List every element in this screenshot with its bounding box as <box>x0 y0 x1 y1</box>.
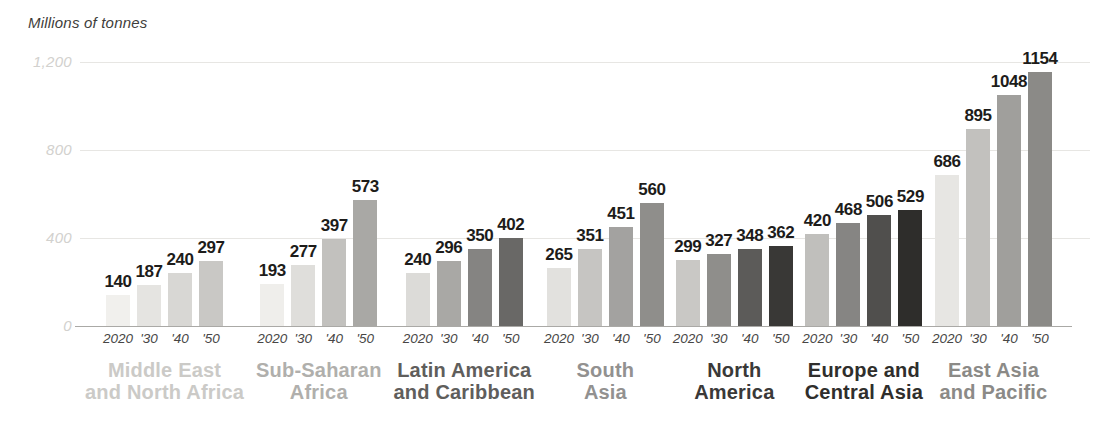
bar-value-label: 362 <box>767 223 794 243</box>
bar-cell: 277 <box>291 242 315 326</box>
x-tick-label: 2020 <box>547 331 571 346</box>
bar-value-label: 140 <box>104 272 131 292</box>
x-tick-label: '30 <box>836 331 860 346</box>
bar-cluster: 299327348362 <box>676 62 793 326</box>
x-tick-row: 2020'30'40'50 <box>676 331 793 346</box>
bar-cluster: 420468506529 <box>805 62 922 326</box>
bar-cell: 468 <box>836 200 860 326</box>
bar-value-label: 296 <box>435 238 462 258</box>
bar-value-label: 193 <box>259 261 286 281</box>
y-tick-label-1200: 1,200 <box>0 53 72 70</box>
bar-cluster: 140187240297 <box>106 62 223 326</box>
x-tick-label: '50 <box>1028 331 1052 346</box>
bar-cell: 1154 <box>1028 49 1052 326</box>
bar <box>935 175 959 326</box>
bar-cell: 895 <box>966 106 990 326</box>
x-tick-label: '50 <box>898 331 922 346</box>
group-label: NorthAmerica <box>694 359 774 404</box>
bar-value-label: 573 <box>352 177 379 197</box>
bar-group: 1401872402972020'30'40'50Middle Eastand … <box>85 62 244 404</box>
bar <box>997 95 1021 326</box>
bar-group: 1932773975732020'30'40'50Sub-SaharanAfri… <box>256 62 382 404</box>
bar-value-label: 451 <box>607 204 634 224</box>
bar-value-label: 277 <box>290 242 317 262</box>
x-tick-label: '50 <box>769 331 793 346</box>
y-tick-label-400: 400 <box>0 229 72 246</box>
group-label-line: East Asia <box>940 359 1048 381</box>
bar <box>547 268 571 326</box>
bar <box>322 239 346 326</box>
bar-value-label: 686 <box>933 152 960 172</box>
bar-cell: 506 <box>867 192 891 326</box>
bar-cell: 420 <box>805 211 829 326</box>
bar-value-label: 351 <box>576 226 603 246</box>
x-tick-label: '30 <box>707 331 731 346</box>
bar-value-label: 240 <box>404 250 431 270</box>
group-label: Europe andCentral Asia <box>805 359 923 404</box>
bar <box>199 261 223 326</box>
bar-value-label: 402 <box>497 215 524 235</box>
x-tick-label: '40 <box>609 331 633 346</box>
x-tick-label: 2020 <box>676 331 700 346</box>
bar-value-label: 895 <box>964 106 991 126</box>
bar-cluster: 265351451560 <box>547 62 664 326</box>
bar-value-label: 265 <box>545 245 572 265</box>
bar <box>1028 72 1052 326</box>
x-tick-row: 2020'30'40'50 <box>935 331 1052 346</box>
x-tick-label: '40 <box>322 331 346 346</box>
x-tick-label: '40 <box>738 331 762 346</box>
bar <box>966 129 990 326</box>
x-tick-row: 2020'30'40'50 <box>805 331 922 346</box>
x-tick-label: 2020 <box>106 331 130 346</box>
bar <box>836 223 860 326</box>
x-tick-row: 2020'30'40'50 <box>547 331 664 346</box>
bar-cell: 299 <box>676 237 700 326</box>
bar-cell: 265 <box>547 245 571 326</box>
y-tick-label-800: 800 <box>0 141 72 158</box>
bar-value-label: 1048 <box>991 72 1027 92</box>
x-tick-label: '30 <box>291 331 315 346</box>
group-label-line: Central Asia <box>805 381 923 403</box>
x-tick-label: '30 <box>578 331 602 346</box>
group-label-line: Asia <box>577 381 635 403</box>
bar <box>168 273 192 326</box>
group-label-line: and North Africa <box>85 381 244 403</box>
bar-cell: 686 <box>935 152 959 326</box>
x-tick-label: '40 <box>997 331 1021 346</box>
bar-value-label: 348 <box>736 226 763 246</box>
bar <box>291 265 315 326</box>
bar-value-label: 297 <box>197 238 224 258</box>
group-label: East Asiaand Pacific <box>940 359 1048 404</box>
bar-cell: 187 <box>137 262 161 326</box>
group-label-line: Middle East <box>85 359 244 381</box>
chart-unit-title: Millions of tonnes <box>28 14 148 31</box>
x-tick-label: '50 <box>499 331 523 346</box>
group-label-line: Latin America <box>393 359 535 381</box>
bar-cell: 402 <box>499 215 523 326</box>
bar-value-label: 468 <box>835 200 862 220</box>
bar <box>805 234 829 326</box>
group-label: Latin Americaand Caribbean <box>393 359 535 404</box>
bar <box>260 284 284 326</box>
bar-value-label: 240 <box>166 250 193 270</box>
bar-groups-row: 1401872402972020'30'40'50Middle Eastand … <box>85 62 1052 404</box>
bar-cell: 240 <box>168 250 192 326</box>
bar-group: 2653514515602020'30'40'50SouthAsia <box>547 62 664 404</box>
group-label-line: Africa <box>256 381 382 403</box>
bar-cluster: 240296350402 <box>406 62 523 326</box>
bar-group: 686895104811542020'30'40'50East Asiaand … <box>935 62 1052 404</box>
x-tick-label: '50 <box>199 331 223 346</box>
group-label-line: North <box>694 359 774 381</box>
x-tick-label: 2020 <box>406 331 430 346</box>
bar-value-label: 506 <box>866 192 893 212</box>
group-label: Middle Eastand North Africa <box>85 359 244 404</box>
y-tick-label-0: 0 <box>0 317 72 334</box>
bar-value-label: 397 <box>321 216 348 236</box>
bar-value-label: 187 <box>135 262 162 282</box>
bar <box>499 238 523 326</box>
bar-cell: 296 <box>437 238 461 326</box>
bar-value-label: 1154 <box>1022 49 1057 69</box>
group-label-line: South <box>577 359 635 381</box>
group-label-line: and Pacific <box>940 381 1048 403</box>
bar-value-label: 420 <box>804 211 831 231</box>
